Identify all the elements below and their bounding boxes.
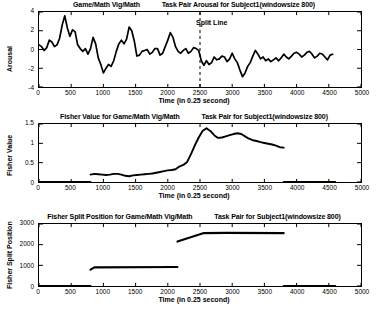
xtick-label: 1500 (118, 184, 152, 191)
xtick-label: 2500 (183, 288, 217, 295)
xtick-label: 3500 (248, 184, 282, 191)
panel-split-plot-area (38, 223, 362, 287)
xtick-label: 1000 (86, 89, 120, 96)
panel-arousal: Game/Math Vig/Math Task Pair Arousal for… (0, 0, 388, 112)
panel-arousal-title-right: Task Pair Arousal for Subject1(windowsiz… (162, 0, 315, 9)
panel-fisher-title-right: Task Pair for Subject1(windowsize 800) (202, 112, 328, 121)
ytick-label: 1.5 (4, 119, 34, 126)
panel-fisher-split-position: Fisher Split Position for Game/Math Vig/… (0, 212, 388, 328)
xtick-label: 3000 (215, 89, 249, 96)
xtick-label: 2000 (151, 288, 185, 295)
ytick-label: 3000 (4, 219, 34, 226)
ytick-label: 2 (4, 26, 34, 33)
xtick-label: 500 (53, 288, 87, 295)
xtick-label: 3000 (215, 288, 249, 295)
xtick-label: 5000 (345, 89, 379, 96)
xtick-label: 1500 (118, 288, 152, 295)
fisher-value-series-plot (39, 124, 361, 182)
ytick-label: 2000 (4, 240, 34, 247)
panel-split-xlabel: Time (in 0.25 second) (0, 296, 388, 303)
panel-split-title-left: Fisher Split Position for Game/Math Vig/… (47, 212, 192, 221)
xtick-label: 500 (53, 184, 87, 191)
xtick-label: 3500 (248, 89, 282, 96)
xtick-label: 0 (21, 89, 55, 96)
xtick-label: 2500 (183, 89, 217, 96)
matlab-figure-window: Game/Math Vig/Math Task Pair Arousal for… (0, 0, 388, 328)
xtick-label: 1000 (86, 184, 120, 191)
panel-fisher-title-left: Fisher Value for Game/Math Vig/Math (60, 112, 180, 121)
ytick-label: 4 (4, 7, 34, 14)
ytick-label: 0 (4, 46, 34, 53)
xtick-label: 5000 (345, 184, 379, 191)
xtick-label: 0 (21, 184, 55, 191)
panel-arousal-xlabel: Time (in 0.25 second) (0, 97, 388, 104)
ytick-label: 1 (4, 139, 34, 146)
xtick-label: 0 (21, 288, 55, 295)
panel-split-title-right: Task Pair for Subject1(windowsize 800) (214, 212, 340, 221)
panel-fisher-plot-area (38, 123, 362, 183)
panel-arousal-title: Game/Math Vig/Math Task Pair Arousal for… (0, 0, 388, 9)
panel-fisher-title: Fisher Value for Game/Math Vig/Math Task… (0, 112, 388, 121)
xtick-label: 4500 (313, 184, 347, 191)
panel-arousal-title-left: Game/Math Vig/Math (73, 0, 140, 9)
panel-fisher-value: Fisher Value for Game/Math Vig/Math Task… (0, 112, 388, 212)
xtick-label: 2000 (151, 184, 185, 191)
split-line-label: Split Line (196, 19, 228, 26)
xtick-label: 3000 (215, 184, 249, 191)
split-position-series-plot (39, 224, 361, 286)
panel-fisher-xlabel: Time (in 0.25 second) (0, 192, 388, 199)
xtick-label: 3500 (248, 288, 282, 295)
xtick-label: 4000 (280, 89, 314, 96)
ytick-label: 0.5 (4, 159, 34, 166)
panel-split-ylabel: Fisher Split Position (6, 221, 13, 289)
xtick-label: 4000 (280, 288, 314, 295)
xtick-label: 500 (53, 89, 87, 96)
xtick-label: 4500 (313, 288, 347, 295)
xtick-label: 5000 (345, 288, 379, 295)
xtick-label: 1000 (86, 288, 120, 295)
ytick-label: 1000 (4, 262, 34, 269)
xtick-label: 1500 (118, 89, 152, 96)
panel-split-title: Fisher Split Position for Game/Math Vig/… (0, 212, 388, 221)
xtick-label: 4500 (313, 89, 347, 96)
ytick-label: -2 (4, 65, 34, 72)
xtick-label: 4000 (280, 184, 314, 191)
xtick-label: 2500 (183, 184, 217, 191)
xtick-label: 2000 (151, 89, 185, 96)
